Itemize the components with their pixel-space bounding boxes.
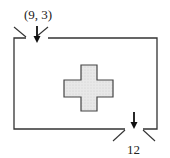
exit-arrow-icon — [131, 112, 138, 129]
entry-label: (9, 3) — [24, 8, 52, 21]
room-diagram — [0, 0, 170, 158]
exit-label: 12 — [127, 143, 140, 156]
cross-obstacle — [64, 65, 113, 111]
exit-door — [113, 130, 155, 141]
entry-door — [14, 27, 48, 37]
